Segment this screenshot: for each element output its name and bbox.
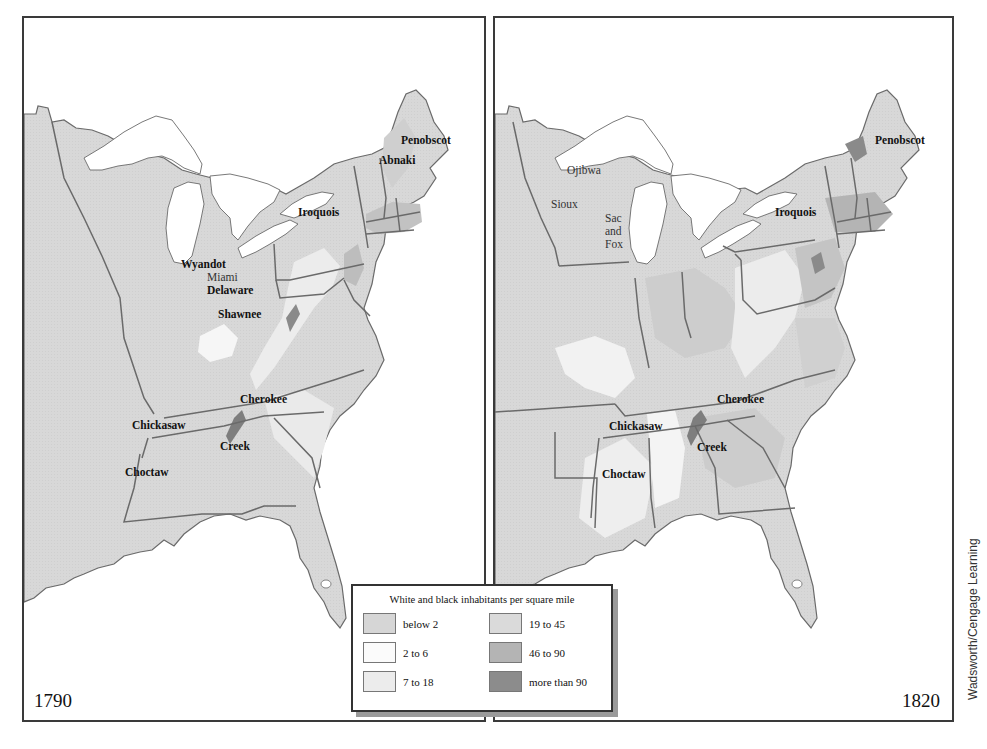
legend-swatch — [489, 671, 522, 692]
legend-grid: below 2 19 to 45 2 to 6 46 to 90 7 to 18… — [363, 613, 601, 692]
year-label-1790: 1790 — [34, 690, 72, 712]
legend-item-below-2: below 2 — [363, 613, 475, 634]
label-iroquois: Iroquois — [775, 206, 816, 218]
legend-swatch — [363, 671, 396, 692]
legend-item-more-than-90: more than 90 — [489, 671, 601, 692]
legend-label: 19 to 45 — [529, 618, 565, 630]
legend-item-46-to-90: 46 to 90 — [489, 642, 601, 663]
label-shawnee: Shawnee — [218, 308, 261, 320]
lake-okeechobee — [792, 580, 802, 588]
legend-label: below 2 — [403, 618, 438, 630]
legend-swatch — [363, 642, 396, 663]
lake-okeechobee — [321, 580, 331, 588]
label-wyandot: Wyandot — [181, 258, 226, 270]
label-abnaki: Abnaki — [379, 154, 415, 166]
legend-label: 2 to 6 — [403, 647, 428, 659]
label-creek: Creek — [220, 440, 250, 452]
label-cherokee: Cherokee — [717, 393, 764, 405]
label-cherokee: Cherokee — [240, 393, 287, 405]
label-creek: Creek — [697, 441, 727, 453]
label-ojibwa: Ojibwa — [567, 164, 601, 176]
land-mass — [495, 90, 919, 628]
legend-item-19-to-45: 19 to 45 — [489, 613, 601, 634]
legend-item-2-to-6: 2 to 6 — [363, 642, 475, 663]
legend-label: 7 to 18 — [403, 676, 434, 688]
legend-label: 46 to 90 — [529, 647, 565, 659]
label-fox: Fox — [605, 238, 623, 250]
label-penobscot: Penobscot — [875, 134, 925, 146]
label-miami: Miami — [207, 271, 238, 283]
label-chickasaw: Chickasaw — [609, 420, 663, 432]
legend-swatch — [489, 613, 522, 634]
legend-item-7-to-18: 7 to 18 — [363, 671, 475, 692]
label-choctaw: Choctaw — [602, 468, 645, 480]
density-legend: White and black inhabitants per square m… — [351, 584, 613, 712]
label-chickasaw: Chickasaw — [132, 419, 186, 431]
label-sioux: Sioux — [551, 198, 578, 210]
legend-label: more than 90 — [529, 676, 587, 688]
legend-swatch — [363, 613, 396, 634]
label-sac: Sac — [605, 212, 622, 224]
year-label-1820: 1820 — [902, 690, 940, 712]
label-choctaw: Choctaw — [125, 466, 168, 478]
label-penobscot: Penobscot — [401, 134, 451, 146]
legend-swatch — [489, 642, 522, 663]
label-iroquois: Iroquois — [298, 206, 339, 218]
label-delaware: Delaware — [207, 284, 253, 296]
legend-title: White and black inhabitants per square m… — [363, 594, 601, 605]
publisher-credit: Wadsworth/Cengage Learning — [966, 538, 980, 700]
label-and: and — [605, 225, 622, 237]
